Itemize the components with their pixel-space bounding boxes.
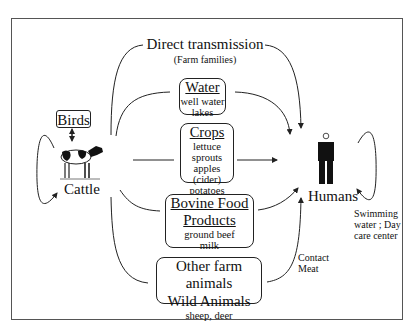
bovine-item: ground beef	[166, 229, 253, 240]
cow-icon	[60, 146, 103, 179]
birds-label: Birds	[57, 112, 90, 128]
other-animals-line2: Wild Animals	[157, 293, 261, 310]
bovine-food-products-box: Bovine Food Products ground beef milk	[165, 194, 254, 248]
direct-transmission-title: Direct transmission	[146, 36, 263, 52]
farm-families-label: (Farm families)	[170, 55, 240, 66]
water-day-label: water ; Day	[354, 219, 401, 230]
bovine-title-line1: Bovine Food	[166, 195, 253, 212]
swimming-label: Swimming	[354, 208, 401, 219]
contact-label: Contact	[298, 253, 329, 264]
cattle-label: Cattle	[62, 182, 102, 198]
crops-item: lettuce	[181, 141, 233, 152]
crops-item: sprouts	[181, 152, 233, 163]
water-title: Water	[180, 79, 225, 96]
contact-meat-note: Contact Meat	[298, 253, 329, 274]
human-icon	[318, 133, 334, 184]
meat-label: Meat	[298, 264, 329, 275]
water-box: Water well water lakes	[179, 78, 226, 115]
other-animals-item: sheep, deer	[157, 310, 261, 321]
water-item: lakes	[180, 107, 225, 118]
care-center-label: care center	[354, 230, 401, 241]
crops-item: apples (cider)	[181, 163, 233, 185]
swimming-daycare-note: Swimming water ; Day care center	[354, 208, 401, 241]
other-animals-line1: Other farm animals	[157, 258, 261, 293]
crops-title: Crops	[181, 124, 233, 141]
crops-box: Crops lettuce sprouts apples (cider) pot…	[180, 123, 234, 183]
direct-transmission-label: Direct transmission	[145, 36, 265, 53]
bovine-title-line2: Products	[166, 212, 253, 229]
birds-box: Birds	[56, 110, 91, 128]
bovine-item: milk	[166, 240, 253, 251]
other-animals-box: Other farm animals Wild Animals sheep, d…	[156, 257, 262, 304]
water-item: well water	[180, 96, 225, 107]
humans-label: Humans	[303, 189, 363, 205]
